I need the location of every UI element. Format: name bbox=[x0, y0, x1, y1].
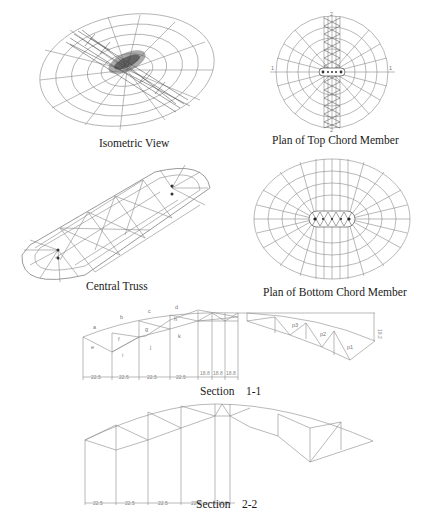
isometric-view-caption: Isometric View bbox=[99, 137, 169, 149]
section-2-2-drawing: 22.5 22.5 22.5 22.5 18.8 bbox=[0, 400, 423, 514]
central-truss-caption: Central Truss bbox=[86, 280, 148, 292]
member-labels: a b c d e f g h i j k p1 p2 p3 bbox=[91, 304, 353, 358]
section-mark-right: 1 bbox=[389, 65, 392, 71]
svg-text:p1: p1 bbox=[347, 344, 353, 350]
dimension-labels: 22.5 22.5 22.5 22.5 18.8 18.8 18.8 bbox=[91, 370, 236, 380]
section-1-1-caption: Section 1-1 bbox=[200, 385, 261, 397]
svg-text:f: f bbox=[118, 336, 120, 342]
plan-bottom-chord-caption: Plan of Bottom Chord Member bbox=[263, 286, 407, 298]
svg-text:c: c bbox=[148, 308, 151, 314]
section-2-2-caption: Section 2-2 bbox=[196, 498, 257, 510]
plan-top-chord-drawing: 1 1 2 2 bbox=[215, 0, 423, 150]
svg-text:22.5: 22.5 bbox=[147, 374, 157, 380]
svg-text:22.5: 22.5 bbox=[119, 374, 129, 380]
svg-text:j: j bbox=[149, 344, 151, 350]
svg-text:22.5: 22.5 bbox=[158, 500, 168, 506]
svg-text:h: h bbox=[174, 316, 177, 322]
isometric-view-figure: Isometric View bbox=[0, 0, 215, 150]
section-2-2-figure: 22.5 22.5 22.5 22.5 18.8 Section 2-2 bbox=[0, 400, 423, 514]
svg-text:g: g bbox=[145, 326, 148, 332]
section-1-1-figure: 19.2 a b c d e f g h i j k p1 p2 p3 22.5… bbox=[0, 305, 423, 405]
svg-text:22.5: 22.5 bbox=[91, 374, 101, 380]
plan-bottom-chord-figure: Plan of Bottom Chord Member bbox=[215, 150, 423, 305]
section-mark-top: 2 bbox=[330, 11, 333, 17]
svg-text:p2: p2 bbox=[320, 331, 326, 337]
svg-text:b: b bbox=[120, 314, 123, 320]
svg-text:p3: p3 bbox=[292, 322, 298, 328]
central-truss-figure: Central Truss bbox=[0, 150, 215, 305]
plan-top-chord-caption: Plan of Top Chord Member bbox=[272, 134, 399, 146]
svg-text:k: k bbox=[178, 333, 181, 339]
svg-text:e: e bbox=[91, 344, 94, 350]
svg-text:d: d bbox=[175, 304, 178, 310]
svg-text:22.5: 22.5 bbox=[93, 500, 103, 506]
svg-text:a: a bbox=[93, 324, 97, 330]
svg-text:22.5: 22.5 bbox=[125, 500, 135, 506]
plan-top-chord-figure: 1 1 2 2 Plan of Top Chord Member bbox=[215, 0, 423, 150]
height-dimension: 19.2 bbox=[377, 329, 383, 339]
plan-bottom-chord-drawing bbox=[215, 150, 423, 305]
svg-text:22.5: 22.5 bbox=[176, 374, 186, 380]
svg-text:18.8: 18.8 bbox=[200, 370, 210, 376]
section-mark-left: 1 bbox=[271, 65, 274, 71]
svg-text:18.8: 18.8 bbox=[226, 370, 236, 376]
section-mark-bottom: 2 bbox=[330, 127, 333, 133]
svg-text:18.8: 18.8 bbox=[213, 370, 223, 376]
svg-text:i: i bbox=[122, 352, 123, 358]
isometric-view-drawing bbox=[0, 0, 215, 150]
